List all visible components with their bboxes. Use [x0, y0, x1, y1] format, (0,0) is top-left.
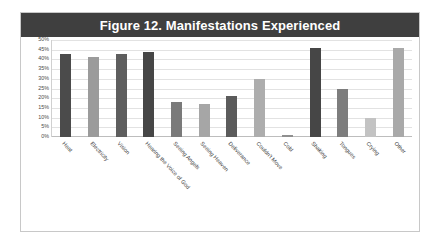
bar-slot [80, 40, 108, 137]
x-axis-tick-label: Other [393, 141, 407, 155]
bar-slot [218, 40, 246, 137]
bar[interactable] [226, 96, 237, 137]
bar-slot [246, 40, 274, 137]
bar[interactable] [254, 79, 265, 137]
bar-slot [274, 40, 302, 137]
x-label-slot: Heat [51, 139, 79, 229]
x-axis-tick-label: Heat [61, 141, 73, 153]
plot-area [51, 40, 412, 137]
y-axis-tick-label: 25% [38, 86, 49, 91]
bar-slot [190, 40, 218, 137]
y-axis-tick-label: 50% [38, 37, 49, 42]
y-axis-tick-label: 10% [38, 115, 49, 120]
y-axis: 50%45%40%35%30%25%20%15%10%5%0% [23, 37, 49, 137]
x-label-slot: Seeing Heaven [189, 139, 217, 229]
y-axis-tick-label: 15% [38, 105, 49, 110]
bar[interactable] [393, 48, 404, 137]
x-axis-tick-label: Vision [116, 141, 130, 156]
x-axis-tick-label: Tongues [338, 141, 357, 160]
bar-slot [329, 40, 357, 137]
x-label-slot: Crying [356, 139, 384, 229]
x-label-slot: Couldn't Move [245, 139, 273, 229]
bar[interactable] [171, 102, 182, 137]
x-label-slot: Electricity [79, 139, 107, 229]
bar-series [52, 40, 412, 137]
x-axis-tick-label: Shaking [310, 141, 328, 160]
y-axis-tick-label: 5% [41, 125, 49, 130]
bar-slot [384, 40, 412, 137]
x-label-slot: Tongues [328, 139, 356, 229]
x-label-slot: Vision [106, 139, 134, 229]
x-axis-labels: HeatElectricityVisionHearing the Voice o… [51, 139, 411, 229]
bar[interactable] [143, 52, 154, 137]
x-label-slot: Other [383, 139, 411, 229]
bar-slot [357, 40, 385, 137]
x-label-slot: Seeing Angels [162, 139, 190, 229]
bar[interactable] [337, 89, 348, 138]
figure-title-bar: Figure 12. Manifestations Experienced [21, 13, 419, 37]
x-label-slot: Deliverance [217, 139, 245, 229]
x-label-slot: Hearing the Voice of God [134, 139, 162, 229]
bar-slot [52, 40, 80, 137]
bar-slot [135, 40, 163, 137]
bar[interactable] [282, 135, 293, 137]
y-axis-tick-label: 40% [38, 57, 49, 62]
figure-frame: Figure 12. Manifestations Experienced 50… [20, 12, 420, 232]
y-axis-tick-label: 20% [38, 95, 49, 100]
bar[interactable] [199, 104, 210, 137]
bar[interactable] [60, 54, 71, 137]
x-axis-tick-label: Crying [365, 141, 380, 157]
x-axis-tick-label: Cold [282, 141, 294, 153]
y-axis-tick-label: 35% [38, 66, 49, 71]
bar[interactable] [88, 57, 99, 137]
bar-slot [107, 40, 135, 137]
chart-canvas: 50%45%40%35%30%25%20%15%10%5%0% HeatElec… [21, 37, 419, 231]
bar[interactable] [310, 48, 321, 137]
y-axis-tick-label: 0% [41, 134, 49, 139]
bar-slot [163, 40, 191, 137]
y-axis-tick-label: 45% [38, 47, 49, 52]
x-label-slot: Cold [273, 139, 301, 229]
x-label-slot: Shaking [300, 139, 328, 229]
bar[interactable] [116, 54, 127, 137]
bar[interactable] [365, 118, 376, 137]
page-title: Figure 12. Manifestations Experienced [100, 18, 341, 33]
bar-slot [301, 40, 329, 137]
y-axis-tick-label: 30% [38, 76, 49, 81]
